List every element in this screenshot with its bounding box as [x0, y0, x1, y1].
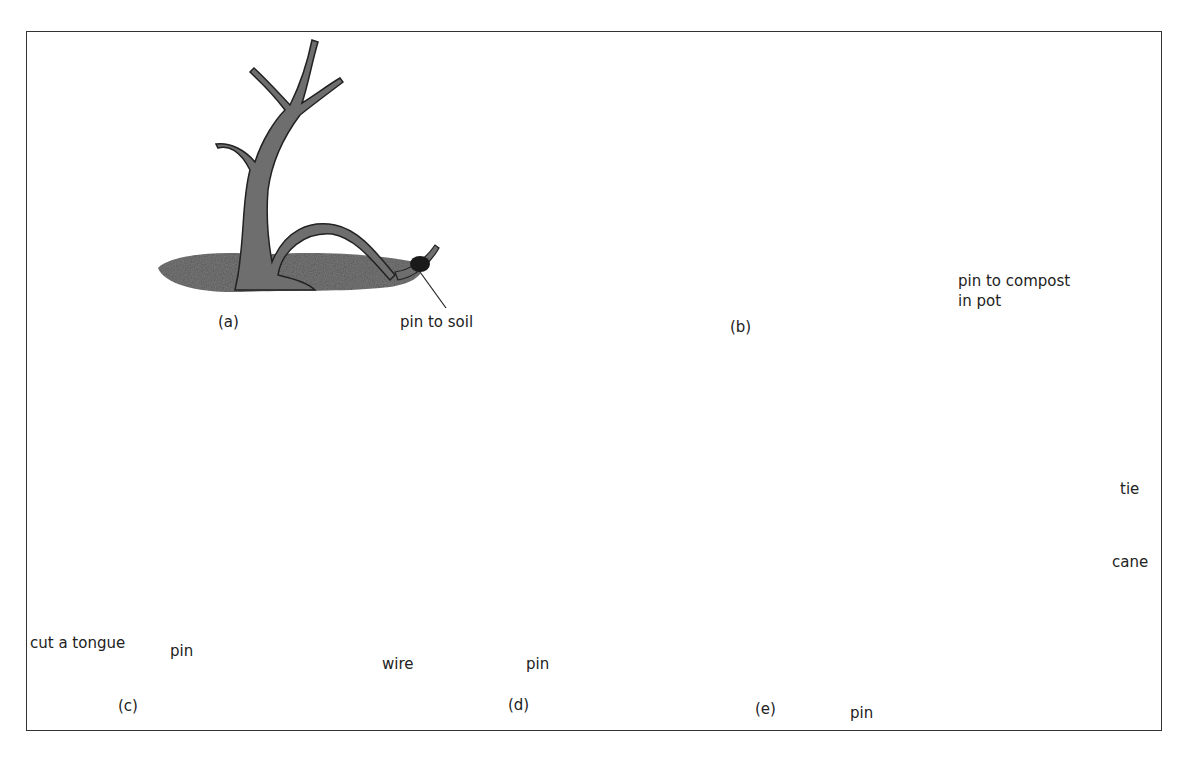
label-pin-d: pin — [526, 655, 549, 673]
label-pin-to-compost: pin to compost — [958, 272, 1070, 290]
caption-d: (d) — [508, 696, 529, 714]
caption-b: (b) — [730, 318, 751, 336]
caption-e: (e) — [755, 700, 776, 718]
label-pin-e: pin — [850, 704, 873, 722]
label-cane: cane — [1112, 553, 1148, 571]
label-cut-a-tongue: cut a tongue — [30, 634, 125, 652]
label-pin-c: pin — [170, 642, 193, 660]
panel-a-drawing — [158, 40, 446, 308]
label-pin-to-soil: pin to soil — [400, 313, 473, 331]
label-in-pot: in pot — [958, 292, 1001, 310]
label-tie: tie — [1120, 480, 1139, 498]
caption-c: (c) — [118, 697, 138, 715]
caption-a: (a) — [218, 313, 239, 331]
label-wire: wire — [382, 655, 414, 673]
